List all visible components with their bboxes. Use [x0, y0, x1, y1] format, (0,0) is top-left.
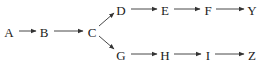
- node-a: A: [4, 25, 14, 40]
- node-d: D: [116, 3, 125, 18]
- node-c: C: [88, 25, 97, 40]
- arrow-c-to-d: [99, 13, 114, 26]
- diagram-canvas: ABCDEFYGHIZ: [0, 0, 263, 64]
- node-h: H: [160, 48, 169, 63]
- node-f: F: [204, 3, 211, 18]
- node-z: Z: [248, 48, 256, 63]
- node-e: E: [161, 3, 169, 18]
- node-y: Y: [247, 3, 257, 18]
- nodes-layer: ABCDEFYGHIZ: [4, 3, 257, 63]
- node-g: G: [116, 48, 125, 63]
- flow-diagram: ABCDEFYGHIZ: [0, 0, 263, 64]
- node-b: B: [40, 25, 49, 40]
- node-i: I: [206, 48, 210, 63]
- arrow-c-to-g: [99, 36, 114, 49]
